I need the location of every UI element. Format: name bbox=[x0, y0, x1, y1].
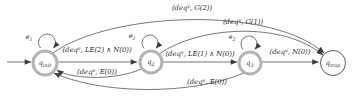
self-loop-qinit bbox=[39, 34, 56, 48]
automaton-figure: qinit q2 q3 qtrap (deqv, G(2)) (deqv, G(… bbox=[0, 0, 361, 98]
label-g1: (deqv, G(1)) bbox=[223, 17, 264, 26]
label-selfloop-q3: e2 bbox=[229, 33, 236, 42]
edge-labels-group: (deqv, G(2)) (deqv, G(1)) (deqv, LE(2) ∧… bbox=[26, 3, 311, 86]
state-q2: q2 bbox=[140, 51, 162, 73]
self-loop-q3 bbox=[241, 36, 257, 49]
state-q3: q3 bbox=[239, 52, 261, 74]
label-le1-n0: (deqv, LE(1) ∧ N(0)) bbox=[165, 49, 235, 58]
label-e0-q3: (deqv, E(0)) bbox=[187, 77, 227, 86]
label-g2: (deqv, G(2)) bbox=[172, 3, 213, 12]
label-selfloop-q2: e2 bbox=[129, 32, 136, 41]
label-e0-q2: (deqv, E(0)) bbox=[77, 67, 117, 76]
label-le2-n0: (deqv, LE(2) ∧ N(0)) bbox=[62, 45, 132, 54]
label-selfloop-qinit: e1 bbox=[26, 33, 33, 42]
state-qinit: qinit bbox=[33, 51, 57, 75]
state-qtrap: qtrap bbox=[321, 51, 346, 76]
automaton-diagram: qinit q2 q3 qtrap (deqv, G(2)) (deqv, G(… bbox=[0, 0, 361, 98]
label-n0: (deqv, N(0)) bbox=[270, 47, 311, 56]
self-loop-q2 bbox=[142, 35, 158, 48]
